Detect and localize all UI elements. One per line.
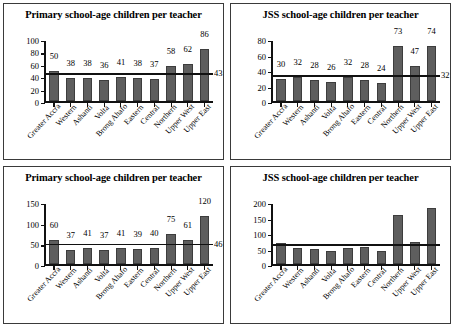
y-tick-mark	[268, 204, 272, 205]
bar-slot	[390, 204, 407, 264]
bar-slot: 62	[179, 41, 196, 101]
y-tick-mark	[41, 53, 45, 54]
bar-slot: 38	[62, 41, 79, 101]
bar	[427, 208, 436, 265]
bar-series	[273, 204, 440, 264]
chart-panel-top-right: JSS school-age children per teacher 0204…	[230, 3, 451, 160]
bar-series: 50383836413837586286	[46, 41, 213, 101]
bar	[66, 78, 75, 101]
bar-value-label: 41	[83, 229, 92, 238]
y-tick-label: 80	[258, 37, 267, 46]
bar-slot: 58	[163, 41, 180, 101]
bar-value-label: 38	[66, 59, 75, 68]
y-tick-mark	[41, 41, 45, 42]
y-tick-label: 100	[253, 231, 266, 240]
panel-cell-top-right: JSS school-age children per teacher 0204…	[227, 0, 454, 163]
x-label-slot: Brong Ahafo	[113, 104, 130, 160]
bar-slot	[373, 204, 390, 264]
y-tick-label: 0	[35, 262, 39, 271]
y-tick-mark	[268, 88, 272, 89]
x-label-slot: Brong Ahafo	[340, 267, 357, 324]
x-label-slot: Western	[62, 104, 79, 160]
y-tick-label: 100	[26, 220, 39, 229]
x-label-slot: Eastern	[356, 104, 373, 160]
bar	[116, 248, 125, 265]
bar	[116, 77, 125, 102]
y-tick-mark	[41, 266, 45, 267]
reference-line-label: 43	[214, 68, 223, 77]
y-tick-mark	[41, 78, 45, 79]
bar	[360, 247, 369, 264]
bar-slot: 38	[79, 41, 96, 101]
axes: 30322826322824734774 32	[271, 41, 440, 103]
y-tick-label: 20	[31, 86, 40, 95]
bar-value-label: 40	[150, 229, 159, 238]
bar-slot	[340, 204, 357, 264]
bar-slot: 37	[146, 41, 163, 101]
bar-slot	[406, 204, 423, 264]
bar-value-label: 38	[83, 59, 92, 68]
bar	[326, 82, 335, 102]
x-label-slot: Greater Accra	[46, 104, 63, 160]
bar	[200, 216, 209, 264]
chart-panel-top-left: Primary school-age children per teacher …	[3, 3, 224, 160]
bar-series: 603741374139407561120	[46, 204, 213, 264]
bar	[377, 83, 386, 101]
bar-slot: 61	[179, 204, 196, 264]
y-tick-mark	[41, 204, 45, 205]
y-tick-label: 60	[31, 62, 40, 71]
reference-line: 46	[44, 244, 213, 246]
bar	[166, 234, 175, 264]
y-tick-label: 40	[258, 68, 267, 77]
bar	[393, 215, 402, 264]
bar-slot: 47	[406, 41, 423, 101]
bar-value-label: 32	[344, 58, 353, 67]
bar-slot: 37	[96, 204, 113, 264]
bar-slot: 41	[113, 41, 130, 101]
axes: 50383836413837586286 43	[44, 41, 213, 103]
chart-title: Primary school-age children per teacher	[4, 167, 223, 185]
bar-value-label: 74	[427, 27, 436, 36]
bar	[276, 243, 285, 265]
x-label-slot: Eastern	[356, 267, 373, 324]
bar	[377, 251, 386, 265]
bar	[360, 80, 369, 101]
y-tick-label: 100	[26, 37, 39, 46]
x-label-slot: Central	[146, 104, 163, 160]
chart-title: JSS school-age children per teacher	[231, 4, 450, 22]
x-label-slot: Central	[373, 104, 390, 160]
bar-slot: 74	[423, 41, 440, 101]
x-label-slot: Eastern	[129, 267, 146, 324]
bar	[49, 71, 58, 101]
bar-slot: 38	[129, 41, 146, 101]
bar-slot: 120	[196, 204, 213, 264]
y-tick-label: 60	[258, 52, 267, 61]
bar	[166, 66, 175, 101]
bar-slot: 28	[306, 41, 323, 101]
x-label-slot: Western	[62, 267, 79, 324]
x-axis-category-labels: Greater AccraWesternAshantiVoltaBrong Ah…	[46, 267, 213, 324]
bar	[99, 80, 108, 102]
reference-line-label: 46	[214, 239, 223, 248]
bar-value-label: 24	[377, 64, 386, 73]
bar	[427, 46, 436, 102]
y-tick-mark	[41, 103, 45, 104]
bar-value-label: 28	[360, 61, 369, 70]
panel-cell-top-left: Primary school-age children per teacher …	[0, 0, 227, 163]
bar	[200, 49, 209, 101]
bar-slot: 36	[96, 41, 113, 101]
bar-slot: 32	[289, 41, 306, 101]
bar-value-label: 30	[277, 60, 286, 69]
bar-slot: 37	[62, 204, 79, 264]
bar-value-label: 75	[167, 215, 176, 224]
bar-slot: 73	[390, 41, 407, 101]
x-label-slot: Ashanti	[306, 267, 323, 324]
y-tick-label: 0	[262, 99, 266, 108]
y-tick-mark	[268, 57, 272, 58]
y-tick-label: 150	[26, 200, 39, 209]
bar-slot	[289, 204, 306, 264]
bar	[99, 250, 108, 265]
y-tick-label: 0	[262, 262, 266, 271]
bar-value-label: 73	[394, 27, 403, 36]
bar	[326, 251, 335, 265]
